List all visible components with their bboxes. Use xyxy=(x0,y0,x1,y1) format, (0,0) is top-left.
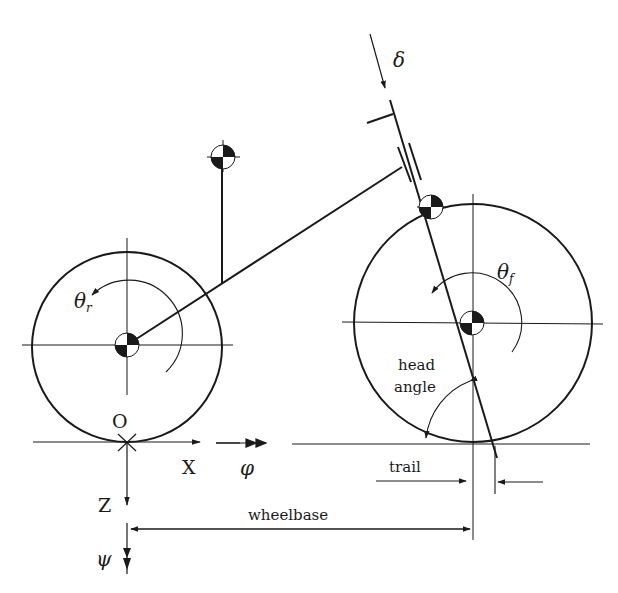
x-axis-label: X xyxy=(182,458,196,477)
z-axis-label: Z xyxy=(98,496,111,515)
theta-rear-symbol: θ xyxy=(74,289,86,313)
rear-wheel-mass-icon xyxy=(115,333,139,357)
front-wheel-mass-icon xyxy=(460,311,484,335)
theta-rear-label: θr xyxy=(74,291,92,314)
theta-front-label: θf xyxy=(497,262,514,285)
trail-label: trail xyxy=(389,460,421,475)
yaw-label: ψ xyxy=(96,549,112,569)
roll-arrow-icon xyxy=(216,439,266,447)
origin-label: O xyxy=(112,412,128,431)
theta-rear-subscript: r xyxy=(86,301,92,315)
theta-front-symbol: θ xyxy=(497,260,509,284)
yaw-arrow-icon xyxy=(123,548,131,570)
front-wheel xyxy=(342,194,603,540)
bicycle-diagram xyxy=(0,0,618,593)
head-angle-label-line2: angle xyxy=(394,380,436,395)
head-angle-label-line1: head xyxy=(398,358,435,373)
rear-frame xyxy=(127,160,402,345)
steer-label: δ xyxy=(393,50,405,70)
wheelbase-label: wheelbase xyxy=(248,508,328,523)
roll-label: φ xyxy=(240,458,254,478)
steer-arrow-icon xyxy=(370,34,385,88)
rider-mass-icon xyxy=(207,140,240,172)
theta-front-subscript: f xyxy=(509,272,513,286)
